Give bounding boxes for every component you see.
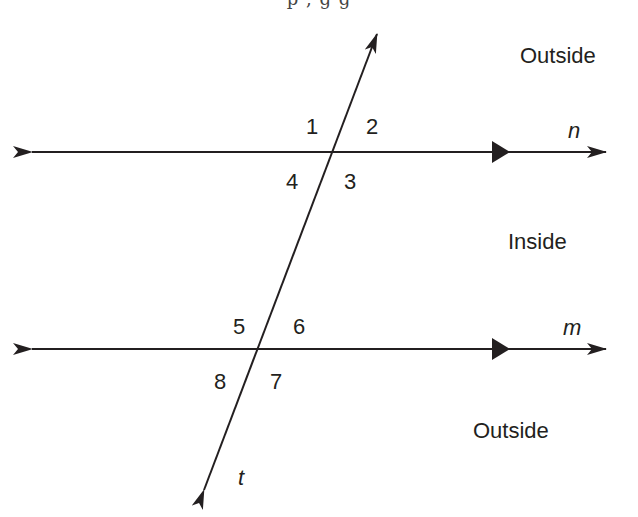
transversal-diagram: p , g g 1 2 3 4 5 6 7 8 n m [0,0,638,517]
angle-6-label: 6 [293,314,305,339]
diagram-svg: 1 2 3 4 5 6 7 8 n m t Outside Inside Out… [0,0,638,517]
parallel-marker-m [492,338,510,360]
angle-8-label: 8 [214,369,226,394]
region-outside-top: Outside [520,43,596,68]
region-inside: Inside [508,229,567,254]
angle-7-label: 7 [270,369,282,394]
line-m [32,338,606,360]
line-t [204,34,377,490]
angle-2-label: 2 [366,114,378,139]
angle-4-label: 4 [286,169,298,194]
angle-3-label: 3 [344,169,356,194]
angle-1-label: 1 [306,114,318,139]
region-outside-bottom: Outside [473,418,549,443]
line-n-label: n [568,118,580,143]
line-m-label: m [563,315,581,340]
line-t-label: t [238,465,245,490]
line-n [32,141,606,163]
parallel-marker-n [492,141,510,163]
angle-5-label: 5 [233,314,245,339]
